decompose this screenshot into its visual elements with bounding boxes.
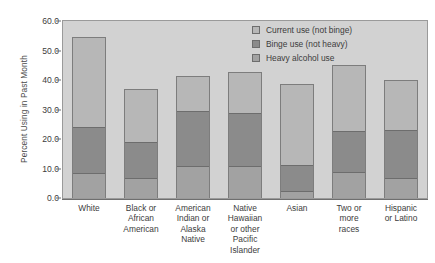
bar-segment — [229, 73, 261, 113]
bar-7 — [384, 80, 418, 198]
bar-segment — [73, 38, 105, 127]
bar-segment — [333, 131, 365, 172]
y-tick-label: 30.0 — [7, 105, 59, 115]
bar-segment — [73, 173, 105, 198]
bar-segment — [281, 165, 313, 190]
x-label-line: Hispanic — [369, 203, 433, 213]
alcohol-use-stacked-bar-chart: Percent Using in Past Month 0.010.020.03… — [0, 0, 435, 263]
bar-segment — [333, 172, 365, 198]
bar-3 — [176, 76, 210, 198]
y-tick-label: 40.0 — [7, 75, 59, 85]
bar-4 — [228, 72, 262, 198]
y-tick-label: 10.0 — [7, 164, 59, 174]
y-tick-label: 60.0 — [7, 16, 59, 26]
bar-segment — [125, 142, 157, 179]
bar-1 — [72, 37, 106, 198]
x-label-line: Pacific — [213, 234, 277, 244]
x-label-line: or other — [213, 224, 277, 234]
y-tick-mark — [56, 21, 61, 22]
y-tick-mark — [56, 139, 61, 140]
bar-segment — [333, 66, 365, 131]
x-label-line: or Latino — [369, 213, 433, 223]
x-axis-line — [62, 199, 428, 200]
legend-item: Heavy alcohol use — [252, 51, 352, 64]
y-tick-label: 20.0 — [7, 134, 59, 144]
y-tick-mark — [56, 168, 61, 169]
y-tick-mark — [56, 198, 61, 199]
legend-label: Current use (not binge) — [266, 25, 352, 35]
bar-group — [63, 21, 427, 198]
legend-swatch-icon — [252, 40, 260, 48]
y-tick-mark — [56, 109, 61, 110]
bar-segment — [229, 166, 261, 198]
y-tick-mark — [56, 80, 61, 81]
bar-segment — [281, 85, 313, 165]
legend-item: Current use (not binge) — [252, 23, 352, 36]
x-label-line: Islander — [213, 245, 277, 255]
bar-segment — [177, 166, 209, 198]
y-tick-label: 50.0 — [7, 46, 59, 56]
x-label-line: races — [317, 224, 381, 234]
bar-segment — [125, 90, 157, 142]
bar-segment — [229, 113, 261, 166]
chart-legend: Current use (not binge)Binge use (not he… — [252, 23, 352, 65]
bar-segment — [281, 191, 313, 198]
legend-swatch-icon — [252, 26, 260, 34]
bar-5 — [280, 84, 314, 198]
bar-segment — [177, 77, 209, 112]
legend-label: Heavy alcohol use — [266, 53, 334, 63]
x-tick-label-7: Hispanicor Latino — [369, 203, 433, 224]
x-label-line: Hawaiian — [213, 213, 277, 223]
bar-segment — [177, 111, 209, 165]
bar-segment — [125, 178, 157, 198]
y-tick-label: 0.0 — [7, 193, 59, 203]
bar-segment — [385, 130, 417, 177]
bar-segment — [73, 127, 105, 173]
bar-segment — [385, 178, 417, 198]
bar-segment — [385, 81, 417, 130]
legend-item: Binge use (not heavy) — [252, 37, 352, 50]
legend-swatch-icon — [252, 54, 260, 62]
bar-6 — [332, 65, 366, 198]
legend-label: Binge use (not heavy) — [266, 39, 347, 49]
bar-2 — [124, 89, 158, 198]
y-tick-mark — [56, 50, 61, 51]
